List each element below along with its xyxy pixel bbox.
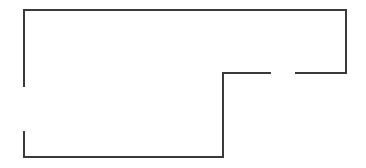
floor-plan-diagram bbox=[0, 0, 366, 168]
